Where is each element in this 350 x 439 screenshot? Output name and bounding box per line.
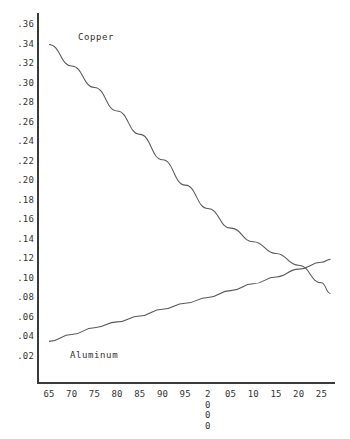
chart-container: .02.04.06.08.10.12.14.16.18.20.22.24.26.…: [0, 0, 350, 439]
x-tick-label: 25: [316, 389, 327, 399]
x-tick-label: 95: [180, 389, 191, 399]
series-annotation-copper: Copper: [78, 32, 114, 42]
x-tick-label: 85: [134, 389, 145, 399]
x-tick-label: 2 0 0 0: [205, 389, 211, 431]
x-axis-tick-labels: 657075808590952 0 0 00510152025: [0, 0, 350, 439]
x-tick-label: 20: [293, 389, 304, 399]
x-tick-label: 05: [225, 389, 236, 399]
x-tick-label: 75: [89, 389, 100, 399]
series-annotation-aluminum: Aluminum: [70, 350, 118, 360]
x-tick-label: 80: [111, 389, 122, 399]
x-tick-label: 15: [270, 389, 281, 399]
x-tick-label: 90: [157, 389, 168, 399]
x-tick-label: 10: [248, 389, 259, 399]
x-tick-label: 65: [43, 389, 54, 399]
x-tick-label: 70: [66, 389, 77, 399]
